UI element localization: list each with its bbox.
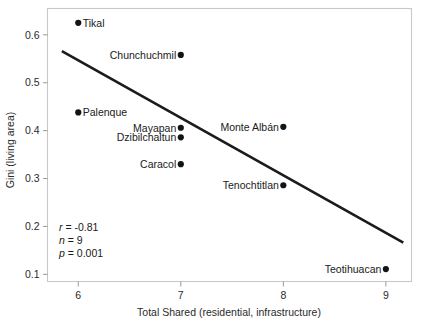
data-point-marker [178,134,184,140]
data-point-label: Caracol [140,158,176,170]
x-tick-label: 9 [383,289,389,301]
trend-line-group [62,51,403,243]
correlation-stat: r = -0.81 [59,221,99,233]
scatter-plot-figure: 0.10.20.30.40.50.6 6789 TikalChunchuchmi… [0,0,422,322]
p-value-stat: p = 0.001 [58,247,103,259]
chart-canvas: 0.10.20.30.40.50.6 6789 TikalChunchuchmi… [0,0,422,322]
y-tick-label: 0.4 [25,124,40,136]
y-tick-label: 0.6 [25,29,40,41]
y-axis-title: Gini (living area) [4,112,16,188]
data-point-label: Teotihuacan [325,263,382,275]
x-tick-label: 6 [75,289,81,301]
x-axis-title: Total Shared (residential, infrastructur… [137,306,321,318]
data-point-marker [280,124,286,130]
regression-trend-line [62,51,403,243]
data-point-label: Tikal [83,17,105,29]
data-point-label: Dzibilchaltun [117,131,177,143]
x-axis-ticks: 6789 [75,282,389,301]
y-tick-label: 0.5 [25,76,40,88]
data-point-marker [383,266,389,272]
y-tick-label: 0.2 [25,220,40,232]
x-tick-label: 7 [178,289,184,301]
data-point-marker [178,125,184,131]
data-point-label: Chunchuchmil [110,49,177,61]
data-point-label: Tenochtitlan [223,179,279,191]
data-point-marker [178,52,184,58]
data-point-label: Monte Albán [220,121,279,133]
statistics-annotation: r = -0.81n = 9p = 0.001 [58,221,103,259]
y-axis-ticks: 0.10.20.30.40.50.6 [25,29,48,280]
data-point-marker [75,109,81,115]
x-tick-label: 8 [280,289,286,301]
y-tick-label: 0.1 [25,268,40,280]
data-point-marker [178,161,184,167]
sample-size-stat: n = 9 [59,234,83,246]
data-point-marker [280,182,286,188]
data-point-marker [75,20,81,26]
data-point-label: Palenque [83,106,128,118]
y-tick-label: 0.3 [25,172,40,184]
